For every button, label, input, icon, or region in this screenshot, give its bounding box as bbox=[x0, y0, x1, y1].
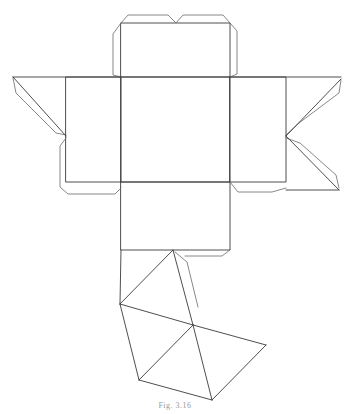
pyr-center-bottom bbox=[193, 325, 212, 400]
top-left-side-tab bbox=[113, 23, 121, 77]
top-panel bbox=[121, 77, 230, 182]
fold-lines-layer bbox=[13, 77, 341, 400]
top-lid-tab bbox=[121, 15, 230, 23]
left-flap-lower bbox=[60, 138, 121, 194]
box-net-diagram bbox=[0, 0, 350, 414]
glue-tabs-layer bbox=[13, 15, 341, 307]
pyr-right-bottom bbox=[212, 345, 266, 400]
pyr-apex-center bbox=[173, 250, 193, 325]
front-bottom-tab bbox=[185, 250, 230, 256]
front-panel bbox=[121, 182, 230, 250]
pyr-bottomleft-bottom bbox=[139, 380, 212, 400]
pyr-left-vertical bbox=[120, 250, 121, 304]
top-tab-panel bbox=[121, 23, 230, 77]
pyr-center-bottomleft bbox=[139, 325, 193, 380]
left-triangle-diag bbox=[13, 77, 66, 136]
left-panel bbox=[66, 77, 121, 182]
pyr-apex-left bbox=[120, 250, 173, 304]
right-panel bbox=[230, 77, 286, 182]
top-right-side-tab bbox=[230, 23, 237, 77]
right-bottom-tab bbox=[230, 182, 286, 192]
pyr-left-bottomleft bbox=[120, 304, 139, 380]
right-triangle-diag-upper bbox=[286, 79, 341, 136]
figure-caption: Fig. 3.16 bbox=[0, 401, 350, 410]
pyr-left-center bbox=[120, 304, 193, 325]
pyramid-side-tab bbox=[175, 252, 198, 307]
right-triangle-diag-lower bbox=[286, 136, 339, 190]
panels-layer bbox=[66, 23, 286, 250]
pyr-center-right bbox=[193, 325, 266, 345]
